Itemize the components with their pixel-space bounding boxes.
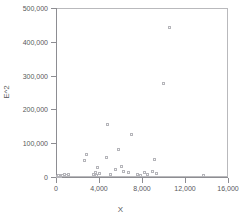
- x-tick: [142, 178, 143, 183]
- data-point: [168, 26, 171, 29]
- x-tick-label: 16,000: [208, 185, 241, 192]
- y-tick-label: 100,000: [0, 140, 48, 147]
- y-tick: [51, 76, 56, 77]
- data-point: [83, 159, 86, 162]
- plot-frame: [56, 8, 228, 177]
- x-tick-label: 0: [36, 185, 76, 192]
- x-tick: [185, 178, 186, 183]
- x-tick: [56, 178, 57, 183]
- x-tick-label: 12,000: [165, 185, 205, 192]
- scatter-plot: 0100,000200,000300,000400,000500,000 04,…: [0, 0, 241, 223]
- y-axis-title: E^2: [3, 72, 11, 112]
- data-point: [96, 166, 99, 169]
- data-point: [85, 153, 88, 156]
- y-tick-label: 400,000: [0, 39, 48, 46]
- y-tick: [51, 109, 56, 110]
- x-axis-title: X: [0, 206, 241, 214]
- data-point: [114, 168, 117, 171]
- y-tick-label: 0: [0, 174, 48, 181]
- data-point: [67, 173, 70, 176]
- data-point: [117, 148, 120, 151]
- x-tick-label: 4,000: [79, 185, 119, 192]
- data-point: [153, 158, 156, 161]
- data-point: [130, 133, 133, 136]
- data-point: [139, 174, 142, 177]
- data-point: [94, 171, 97, 174]
- y-tick: [51, 42, 56, 43]
- x-tick-label: 8,000: [122, 185, 162, 192]
- data-point: [109, 173, 112, 176]
- data-point: [120, 165, 123, 168]
- y-tick-label: 500,000: [0, 5, 48, 12]
- y-axis-line: [56, 8, 57, 178]
- data-point: [127, 171, 130, 174]
- data-point: [151, 170, 154, 173]
- data-point: [106, 123, 109, 126]
- y-tick: [51, 143, 56, 144]
- x-tick: [99, 178, 100, 183]
- data-point: [162, 82, 165, 85]
- data-point: [105, 156, 108, 159]
- data-point: [146, 173, 149, 176]
- data-point: [202, 174, 205, 177]
- y-tick: [51, 8, 56, 9]
- data-point: [122, 170, 125, 173]
- data-point: [98, 172, 101, 175]
- data-point: [155, 172, 158, 175]
- x-tick: [228, 178, 229, 183]
